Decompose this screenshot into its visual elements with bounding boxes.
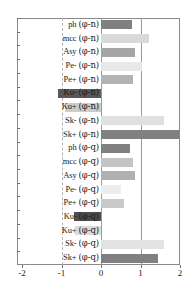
category-label: Pe+ (φ-q) bbox=[64, 198, 99, 207]
category-label: Sk- (φ-n) bbox=[65, 116, 99, 125]
bar bbox=[101, 48, 135, 57]
category-label: ph (φ-q) bbox=[68, 143, 99, 152]
y-tick bbox=[17, 59, 20, 60]
y-tick bbox=[17, 251, 20, 252]
category-label: Sk- (φ-q) bbox=[65, 239, 99, 248]
bar bbox=[101, 158, 133, 167]
category-label: Pe- (φ-n) bbox=[66, 61, 100, 70]
y-tick bbox=[17, 100, 20, 101]
y-tick bbox=[17, 142, 20, 143]
category-label: Ku- (φ-q) bbox=[64, 212, 99, 221]
category-label: Pe+ (φ-n) bbox=[64, 75, 99, 84]
category-label: Asy (φ-n) bbox=[63, 47, 99, 56]
y-tick bbox=[17, 210, 20, 211]
y-tick bbox=[17, 114, 20, 115]
y-tick bbox=[17, 73, 20, 74]
category-label: ph (φ-n) bbox=[68, 20, 99, 29]
bar bbox=[101, 130, 179, 139]
category-label: Ku+ (φ-q) bbox=[62, 226, 99, 235]
category-label: Sk+ (φ-q) bbox=[63, 253, 99, 262]
category-label: mcc (φ-q) bbox=[63, 157, 99, 166]
y-tick bbox=[17, 45, 20, 46]
y-tick bbox=[17, 32, 20, 33]
category-label: mcc (φ-n) bbox=[63, 34, 99, 43]
bar bbox=[101, 199, 124, 208]
bar bbox=[101, 185, 121, 194]
x-tick-label: 2 bbox=[178, 268, 183, 278]
y-tick bbox=[17, 196, 20, 197]
bar bbox=[101, 20, 132, 29]
bar bbox=[101, 62, 142, 71]
bar bbox=[101, 144, 130, 153]
bar bbox=[101, 171, 135, 180]
bar bbox=[101, 254, 158, 263]
y-tick bbox=[17, 238, 20, 239]
x-tick-label: 0 bbox=[99, 268, 104, 278]
category-label: Ku+ (φ-n) bbox=[62, 102, 99, 111]
category-label: Pe- (φ-q) bbox=[66, 185, 99, 194]
bar bbox=[101, 34, 149, 43]
x-tick-label: -2 bbox=[18, 268, 26, 278]
y-tick bbox=[17, 128, 20, 129]
y-tick bbox=[17, 155, 20, 156]
category-label: Sk+ (φ-n) bbox=[63, 130, 99, 139]
x-tick-label: -1 bbox=[58, 268, 66, 278]
bar bbox=[101, 240, 164, 249]
bar-chart: ph (φ-n)mcc (φ-n)Asy (φ-n)Pe- (φ-n)Pe+ (… bbox=[0, 0, 196, 299]
y-tick bbox=[17, 87, 20, 88]
y-tick bbox=[17, 18, 20, 19]
y-tick bbox=[17, 224, 20, 225]
category-label: Ku- (φ-n) bbox=[64, 88, 99, 97]
category-label: Asy (φ-q) bbox=[63, 171, 99, 180]
x-tick-label: 1 bbox=[138, 268, 143, 278]
bar bbox=[101, 75, 133, 84]
bar bbox=[101, 116, 164, 125]
y-tick bbox=[17, 169, 20, 170]
y-tick bbox=[17, 183, 20, 184]
